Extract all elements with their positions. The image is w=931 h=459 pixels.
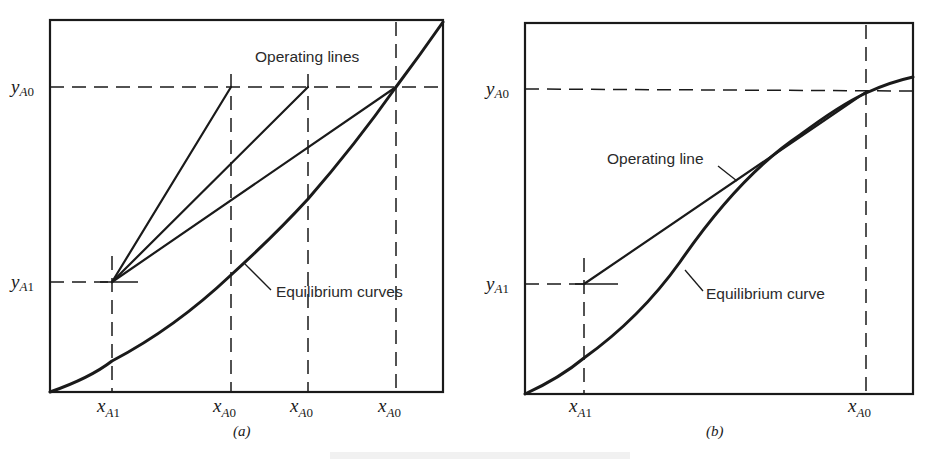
panel-a: Operating lines Equilibrium curves yA0 y… xyxy=(9,20,443,440)
panel-b-equilibrium-leader xyxy=(685,270,703,291)
figure-caption-cutoff xyxy=(330,452,630,459)
figure: Operating lines Equilibrium curves yA0 y… xyxy=(0,0,931,459)
panel-a-equilibrium-leader xyxy=(245,264,271,290)
panel-b: Operating line Equilibrium curve yA0 yA1… xyxy=(484,23,913,440)
panel-a-x-label-xA0-3: xA0 xyxy=(377,395,401,420)
panel-a-operating-line-2 xyxy=(112,87,308,282)
panel-b-equilibrium-curve-label: Equilibrium curve xyxy=(706,285,825,302)
panel-b-x-label-xA1: xA1 xyxy=(568,395,592,420)
panel-a-equilibrium-curve xyxy=(50,22,443,392)
panel-a-x-label-xA0-1: xA0 xyxy=(212,395,236,420)
panel-a-equilibrium-curves-label: Equilibrium curves xyxy=(276,283,403,300)
panel-a-x-label-xA1: xA1 xyxy=(96,395,120,420)
panel-b-y-label-yA0: yA0 xyxy=(484,78,509,101)
panel-a-x-label-xA0-2: xA0 xyxy=(289,395,313,420)
panel-b-equilibrium-curve xyxy=(525,77,913,394)
panel-a-y-label-yA0: yA0 xyxy=(9,76,34,99)
panel-b-y-label-yA1: yA1 xyxy=(484,273,509,296)
panel-b-operating-line-label: Operating line xyxy=(607,150,704,167)
panel-b-x-label-xA0: xA0 xyxy=(847,395,871,420)
panel-a-caption: (a) xyxy=(233,423,251,440)
panel-b-operating-leader xyxy=(718,166,737,181)
panel-b-operating-line xyxy=(584,92,866,284)
panel-a-frame xyxy=(50,20,443,392)
panel-b-yA0-guide xyxy=(525,89,913,91)
panel-a-operating-lines-label: Operating lines xyxy=(255,48,360,65)
panel-a-operating-line-1 xyxy=(112,87,231,282)
panel-a-y-label-yA1: yA1 xyxy=(9,271,34,294)
panel-b-caption: (b) xyxy=(706,423,724,440)
